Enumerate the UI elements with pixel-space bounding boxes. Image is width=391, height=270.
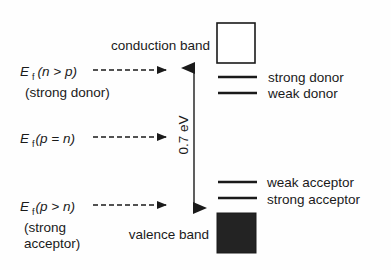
fermi-note-line-1: (strong [24, 220, 66, 235]
fermi-symbol: E [20, 64, 30, 79]
fermi-level-p-gt-n: Ef(p > n) (strong acceptor) [20, 199, 166, 251]
fermi-condition: (n > p) [38, 64, 77, 79]
valence-band-label: valence band [129, 227, 209, 242]
fermi-symbol: E [20, 199, 30, 214]
strong-acceptor-label: strong acceptor [267, 192, 361, 207]
svg-text:Ef(n > p): Ef(n > p) [20, 64, 77, 82]
svg-text:Ef(p = n): Ef(p = n) [20, 131, 75, 149]
fermi-level-p-eq-n: Ef(p = n) [20, 131, 166, 149]
fermi-subscript: f [32, 72, 35, 82]
valence-band-box [217, 213, 256, 253]
strong-donor-label: strong donor [268, 70, 344, 85]
weak-donor-label: weak donor [267, 86, 338, 101]
fermi-note-line-2: acceptor) [24, 236, 80, 251]
conduction-band-box [217, 23, 255, 63]
fermi-condition: (p > n) [36, 199, 75, 214]
band-gap-label: 0.7 eV [176, 115, 191, 154]
svg-text:Ef(p > n): Ef(p > n) [20, 199, 75, 217]
fermi-symbol: E [20, 131, 30, 146]
fermi-level-n-gt-p: Ef(n > p) (strong donor) [20, 64, 166, 100]
fermi-condition: (p = n) [36, 131, 75, 146]
fermi-note: (strong donor) [25, 85, 110, 100]
conduction-band-label: conduction band [111, 38, 210, 53]
weak-acceptor-label: weak acceptor [266, 175, 355, 190]
diagram-svg: conduction band valence band strong dono… [0, 0, 391, 270]
band-diagram: conduction band valence band strong dono… [0, 0, 391, 270]
